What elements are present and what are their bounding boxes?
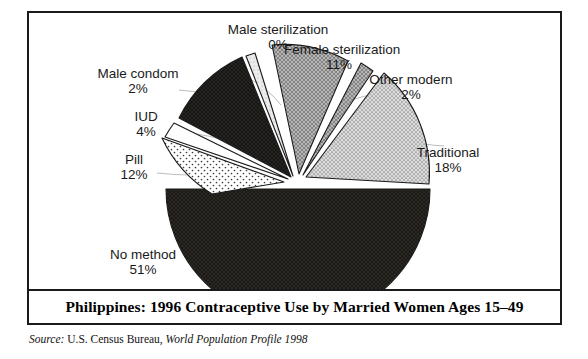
label-iud: IUD 4% bbox=[119, 109, 173, 139]
source-publication: World Population Profile 1998 bbox=[166, 333, 308, 345]
source-prefix: Source: bbox=[29, 333, 64, 345]
label-female-sterilization: Female sterilization 11% bbox=[284, 42, 394, 72]
label-no-method: No method 51% bbox=[89, 247, 197, 277]
label-pill: Pill 12% bbox=[107, 152, 161, 182]
label-traditional: Traditional 18% bbox=[400, 145, 496, 175]
slice-no-method bbox=[166, 189, 430, 289]
title-band: Philippines: 1996 Contraceptive Use by M… bbox=[29, 289, 560, 323]
label-male-condom: Male condom 2% bbox=[84, 66, 192, 96]
figure-frame: Male sterilization 0% Female sterilizati… bbox=[27, 11, 562, 325]
page-title: Philippines: 1996 Contraceptive Use by M… bbox=[65, 298, 523, 316]
label-other-modern: Other modern 2% bbox=[356, 72, 466, 102]
source-note: Source: U.S. Census Bureau, World Popula… bbox=[29, 333, 549, 345]
source-agency: U.S. Census Bureau, bbox=[64, 333, 165, 345]
